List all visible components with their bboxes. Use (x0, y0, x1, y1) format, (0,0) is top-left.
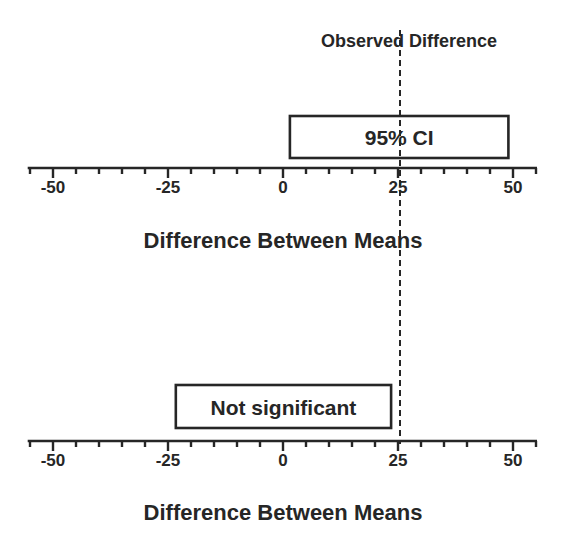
x-axis-tick-labels: -50-2502550 (41, 451, 523, 470)
tick-label: 25 (389, 178, 408, 197)
x-axis-title: Difference Between Means (144, 228, 423, 253)
panel-not-significant: Not significant -50-2502550 Difference B… (28, 385, 537, 525)
tick-label: -25 (156, 178, 181, 197)
tick-label: 0 (278, 178, 287, 197)
x-axis-title: Difference Between Means (144, 500, 423, 525)
ci-box-label: Not significant (211, 396, 357, 419)
tick-label: -50 (41, 178, 66, 197)
tick-label: 50 (504, 178, 523, 197)
x-axis-tick-labels: -50-2502550 (41, 178, 523, 197)
x-axis-ticks (30, 441, 536, 451)
ci-chart: 95% CI -50-2502550 Difference Between Me… (0, 0, 567, 543)
tick-label: 0 (278, 451, 287, 470)
x-axis-ticks (30, 168, 536, 178)
panel-significant: 95% CI -50-2502550 Difference Between Me… (28, 116, 537, 253)
observed-difference-label: Observed Difference (321, 31, 497, 51)
tick-label: 50 (504, 451, 523, 470)
tick-label: 25 (389, 451, 408, 470)
tick-label: -50 (41, 451, 66, 470)
tick-label: -25 (156, 451, 181, 470)
